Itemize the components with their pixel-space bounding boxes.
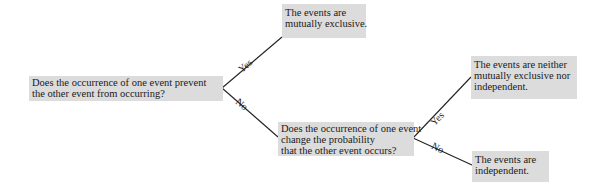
result-line: independent. — [474, 81, 574, 92]
question-box-mutually-exclusive: Does the occurrence of one event prevent… — [29, 76, 223, 101]
result-line: The events are neither — [474, 59, 574, 70]
result-line: independent. — [475, 165, 546, 176]
result-line: mutually exclusive. — [285, 18, 363, 29]
result-box-mutually-exclusive: The events are mutually exclusive. — [282, 4, 366, 38]
result-box-neither: The events are neither mutually exclusiv… — [471, 56, 577, 99]
question-line: Does the occurrence of one event — [281, 123, 411, 134]
result-box-independent: The events are independent. — [472, 151, 549, 182]
result-line: The events are — [475, 154, 546, 165]
question-line: change the probability — [281, 134, 411, 145]
question-line: Does the occurrence of one event prevent — [32, 77, 220, 88]
question-line: the other event from occurring? — [32, 88, 220, 99]
result-line: The events are — [285, 7, 363, 18]
result-line: mutually exclusive nor — [474, 70, 574, 81]
question-box-probability-change: Does the occurrence of one event change … — [278, 122, 414, 156]
question-line: that the other event occurs? — [281, 145, 411, 156]
